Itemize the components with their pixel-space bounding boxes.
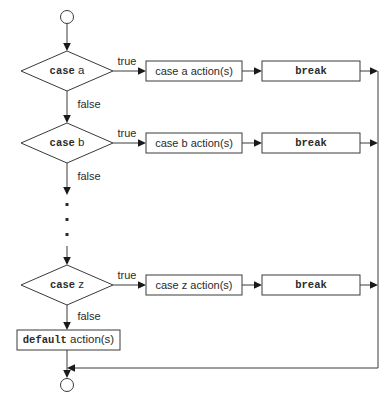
arrowhead-case-a-false: [63, 115, 71, 123]
flowchart-canvas: case a true false case a action(s) break…: [0, 0, 389, 406]
default-keyword: default: [23, 334, 67, 346]
action-label-case-b: case b action(s): [155, 138, 233, 149]
arrowhead-case-z-false: [63, 322, 71, 330]
decision-label-case-a: case a: [50, 65, 85, 77]
default-action-label: default action(s): [23, 334, 114, 346]
arrowhead-case-b-false: [63, 187, 71, 195]
action-label-case-a: case a action(s): [155, 66, 233, 77]
arrowhead-case-a-break-to-bus: [370, 67, 378, 75]
decision-label-case-z: case z: [50, 279, 84, 291]
break-label-case-b: break: [295, 138, 327, 149]
decision-value-text-case-b: b: [78, 136, 84, 148]
decision-keyword-case-z: case: [50, 279, 75, 291]
decision-value-text-case-z: z: [78, 278, 84, 290]
break-label-case-z: break: [295, 280, 327, 291]
break-label-case-a: break: [295, 66, 327, 77]
arrowhead-ellipsis-to-case-z: [63, 257, 71, 265]
decision-keyword-case-a: case: [50, 65, 75, 77]
default-action-text: action(s): [67, 333, 114, 345]
arrowhead-case-b-true: [138, 139, 146, 147]
decision-value-text-case-a: a: [78, 64, 84, 76]
arrowhead-join-to-end: [63, 370, 71, 378]
arrowhead-start-to-case-a: [63, 43, 71, 51]
arrowhead-case-a-action-to-break: [254, 67, 262, 75]
edge-label-true-case-z: true: [118, 270, 137, 281]
edge-label-true-case-a: true: [118, 56, 137, 67]
edge-label-false-case-b: false: [77, 171, 100, 182]
arrowhead-case-z-true: [138, 281, 146, 289]
arrowhead-case-b-action-to-break: [254, 139, 262, 147]
decision-keyword-case-b: case: [50, 137, 75, 149]
arrowhead-case-a-true: [138, 67, 146, 75]
ellipsis-dot-1: [66, 203, 69, 206]
ellipsis-dot-2: [66, 218, 69, 221]
arrowhead-case-b-break-to-bus: [370, 139, 378, 147]
decision-label-case-b: case b: [50, 137, 85, 149]
edge-label-false-case-z: false: [77, 311, 100, 322]
arrowhead-case-z-action-to-break: [254, 281, 262, 289]
edge-label-true-case-b: true: [118, 128, 137, 139]
action-label-case-z: case z action(s): [155, 280, 232, 291]
start-terminator: [61, 11, 74, 24]
edge-label-false-case-a: false: [77, 99, 100, 110]
end-terminator: [61, 379, 74, 392]
arrowhead-case-z-break-to-bus: [370, 281, 378, 289]
ellipsis-dot-3: [66, 233, 69, 236]
